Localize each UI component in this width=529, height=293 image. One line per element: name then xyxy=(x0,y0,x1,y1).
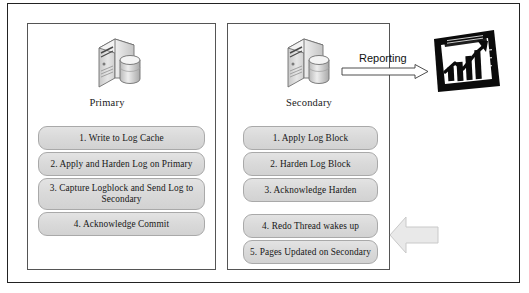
bar-chart-growth-icon xyxy=(430,28,502,94)
server-database-icon-secondary xyxy=(278,31,342,93)
step-secondary-2: 2. Harden Log Block xyxy=(243,152,378,176)
node-label-secondary: Secondary xyxy=(239,97,379,108)
step-primary-1: 1. Write to Log Cache xyxy=(38,126,205,150)
step-primary-3: 3. Capture Logblock and Send Log to Seco… xyxy=(38,178,205,210)
node-label-primary: Primary xyxy=(37,97,177,108)
step-secondary-4: 4. Redo Thread wakes up xyxy=(243,214,378,238)
step-secondary-3: 3. Acknowledge Harden xyxy=(243,178,378,202)
step-primary-2: 2. Apply and Harden Log on Primary xyxy=(38,152,205,176)
step-primary-4: 4. Acknowledge Commit xyxy=(38,212,205,236)
diagram-canvas: Primary 1. Write to Log Cache 2. Apply a… xyxy=(0,0,529,293)
step-secondary-5: 5. Pages Updated on Secondary xyxy=(243,240,378,264)
left-block-arrow-icon xyxy=(389,214,439,256)
step-secondary-1: 1. Apply Log Block xyxy=(243,126,378,150)
reporting-arrow-icon xyxy=(341,63,429,80)
server-database-icon-primary xyxy=(89,31,153,93)
